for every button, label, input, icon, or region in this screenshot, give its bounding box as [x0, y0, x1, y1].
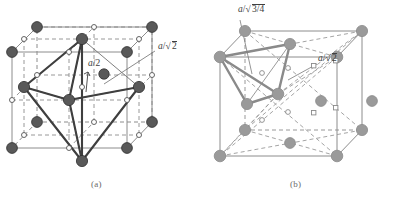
- caption-panel-a: (a): [91, 179, 102, 189]
- label-a-root2-panel-a: a/√2: [158, 41, 177, 52]
- label-half-a: aa/2/2: [88, 58, 100, 68]
- label-a-root2-panel-b: a/√2: [318, 53, 337, 64]
- radicand-a: 2: [172, 41, 178, 52]
- panel-b-unit-cell: [200, 0, 399, 180]
- panel-a-unit-cell: [0, 0, 200, 180]
- figure-container: aa/2/2 a/√2 a/√3/4 a/√2 (a) (b): [0, 0, 399, 198]
- caption-panel-b: (b): [290, 179, 301, 189]
- atoms-b: [214, 25, 377, 161]
- label-a-root-three-quarters: a/√3/4: [238, 4, 265, 15]
- radicand-b2: 2: [332, 53, 338, 64]
- radicand-b1: 3/4: [252, 4, 265, 15]
